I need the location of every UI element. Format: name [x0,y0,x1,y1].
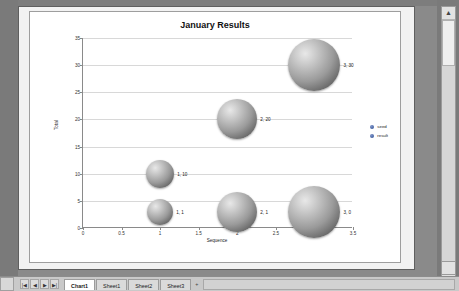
legend-marker-icon [370,134,374,138]
y-tick-label: 30 [75,63,80,68]
scrollbar-thumb[interactable] [442,20,455,66]
chart-title: January Results [30,20,400,30]
x-tick-label: 1 [159,231,162,236]
sheet-tab-chart1[interactable]: Chart1 [64,279,95,290]
bubble-data-label: 2, 1 [260,209,268,214]
legend-entry: seed [370,124,388,129]
x-tick-mark [160,227,161,230]
chart-legend: seedresult [370,124,388,142]
grid-line [83,174,352,175]
chart-page: January Results 0510152025303500.511.522… [29,11,401,263]
y-tick-mark [80,147,83,148]
sheet-tabs[interactable]: Chart1Sheet1Sheet2Sheet3 [64,279,192,290]
bubble-point[interactable] [146,160,174,188]
y-tick-mark [80,119,83,120]
y-tick-mark [80,92,83,93]
sheet-nav-button[interactable]: ◀ [30,279,39,289]
x-tick-mark [353,227,354,230]
y-tick-label: 10 [75,171,80,176]
chart-plot-area: 0510152025303500.511.522.533.51, 11, 102… [82,38,352,228]
vertical-scrollbar[interactable]: ▲ ▼ [441,6,456,278]
grid-line [83,92,352,93]
bubble-point[interactable] [288,186,340,238]
x-axis-label: Sequence [82,238,352,243]
y-tick-mark [80,65,83,66]
scroll-extra-button[interactable] [441,261,456,275]
sheet-nav-button[interactable]: ▶| [50,279,59,289]
sheet-tab-sheet1[interactable]: Sheet1 [96,279,127,290]
chart-sheet-area: January Results 0510152025303500.511.522… [18,6,415,270]
sheet-tab-bar: |◀◀▶▶| Chart1Sheet1Sheet2Sheet3 + [0,276,459,291]
window-left-frame [0,0,18,291]
sheet-tab-sheet2[interactable]: Sheet2 [128,279,159,290]
x-tick-label: 3.5 [350,231,356,236]
x-tick-label: 2.5 [273,231,279,236]
legend-marker-icon [370,125,374,129]
y-tick-label: 5 [77,198,80,203]
y-tick-label: 15 [75,144,80,149]
x-tick-label: 2 [236,231,239,236]
bubble-data-label: 3, 0 [343,209,351,214]
tabbar-corner-button[interactable] [0,277,14,291]
y-tick-mark [80,201,83,202]
x-tick-mark [199,227,200,230]
bubble-data-label: 2, 20 [260,117,270,122]
grid-line [83,147,352,148]
x-tick-label: 0 [82,231,85,236]
y-tick-label: 35 [75,36,80,41]
y-tick-mark [80,174,83,175]
y-tick-label: 0 [77,226,80,231]
bubble-data-label: 1, 10 [177,171,187,176]
x-tick-label: 0.5 [118,231,124,236]
x-tick-mark [83,227,84,230]
bubble-point[interactable] [147,199,173,225]
bubble-data-label: 1, 1 [176,209,184,214]
y-axis-label: Total [54,120,59,130]
sheet-nav-buttons[interactable]: |◀◀▶▶| [17,279,60,289]
legend-label: result [377,133,388,138]
add-sheet-icon[interactable]: + [195,281,198,287]
bubble-data-label: 3, 30 [343,63,353,68]
sheet-nav-button[interactable]: ▶ [40,279,49,289]
y-tick-mark [80,38,83,39]
y-tick-label: 20 [75,117,80,122]
sheet-tab-sheet3[interactable]: Sheet3 [160,279,191,290]
sheet-nav-button[interactable]: |◀ [20,279,29,289]
scroll-up-icon[interactable]: ▲ [442,7,455,20]
bubble-point[interactable] [217,192,257,232]
legend-entry: result [370,133,388,138]
bubble-point[interactable] [288,39,340,91]
x-tick-mark [122,227,123,230]
legend-label: seed [377,124,387,129]
y-tick-label: 25 [75,90,80,95]
x-tick-mark [276,227,277,230]
bubble-point[interactable] [217,99,257,139]
horizontal-scrollbar[interactable] [203,279,455,290]
x-tick-label: 1.5 [196,231,202,236]
spreadsheet-window: January Results 0510152025303500.511.522… [0,0,459,291]
